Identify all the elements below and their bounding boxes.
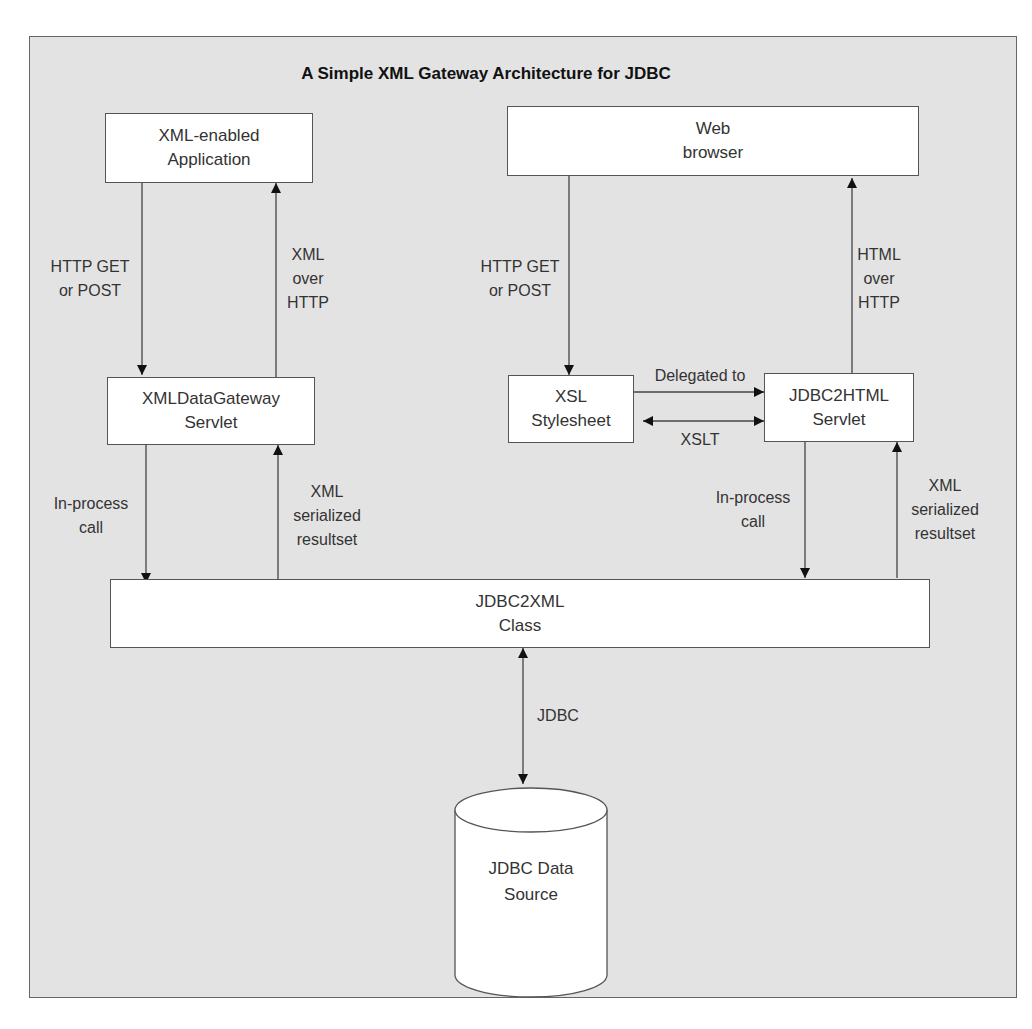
node-xsl-stylesheet[interactable]: XSL Stylesheet [508,375,634,443]
label-class-to-html: XML serialized resultset [900,474,990,546]
label-app-to-gateway: HTTP GET or POST [50,255,130,303]
label-delegated-to: Delegated to [640,364,760,388]
label-html-to-browser: HTML over HTTP [852,243,906,315]
label-browser-to-xsl: HTTP GET or POST [478,255,562,303]
label-class-to-gateway: XML serialized resultset [282,480,372,552]
node-jdbc-data-source[interactable]: JDBC Data Source [455,856,607,908]
node-web-browser[interactable]: Web browser [507,106,919,176]
label-html-to-class: In-process call [706,486,800,534]
label-gateway-to-class: In-process call [44,492,138,540]
label-jdbc: JDBC [530,704,586,728]
node-jdbc2html-servlet[interactable]: JDBC2HTML Servlet [764,373,914,442]
node-jdbc2xml-class[interactable]: JDBC2XML Class [110,579,930,648]
label-xslt: XSLT [670,428,730,452]
node-xml-enabled-application[interactable]: XML-enabled Application [105,113,313,183]
label-gateway-to-app: XML over HTTP [278,243,338,315]
node-xmldatagateway-servlet[interactable]: XMLDataGateway Servlet [107,377,315,445]
